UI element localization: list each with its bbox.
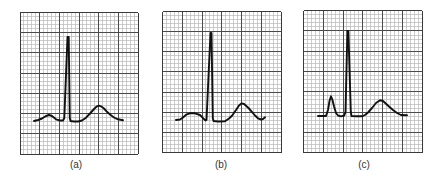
grid-paper-c	[304, 11, 423, 153]
panel-label-c: (c)	[344, 159, 384, 171]
panel-label-a: (a)	[56, 159, 96, 171]
grid-paper-a	[20, 13, 138, 155]
ecg-panel-c	[304, 11, 423, 153]
ecg-figure: (a) (b) (c)	[0, 0, 440, 178]
panel-label-b: (b)	[201, 159, 241, 171]
ecg-panel-a	[20, 13, 138, 155]
ecg-panel-b	[163, 12, 282, 153]
ecg-tracings-svg	[0, 0, 440, 178]
grid-paper-b	[163, 12, 282, 153]
